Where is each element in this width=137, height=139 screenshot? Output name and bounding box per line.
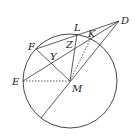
label-Y: Y [50,51,58,62]
label-F: F [27,41,36,52]
label-E: E [11,76,20,87]
label-L: L [73,22,81,33]
label-D: D [120,15,129,26]
label-M: M [71,83,83,94]
segment-D-through-M [41,21,119,118]
geometry-diagram: D L K F Z Y E M [0,0,137,139]
diagram-canvas: D L K F Z Y E M [0,0,137,139]
label-Z: Z [65,39,74,50]
label-K: K [87,28,96,39]
